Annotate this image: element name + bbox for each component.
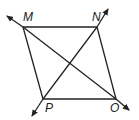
vertex-label-m: M xyxy=(23,10,33,24)
vertex-label-n: N xyxy=(92,10,101,24)
line-mo xyxy=(7,16,23,27)
vertex-label-o: O xyxy=(110,101,119,115)
line-np-ext2 xyxy=(32,99,43,116)
vertex-label-p: P xyxy=(45,101,53,115)
line-np-main xyxy=(43,27,97,99)
side-no xyxy=(97,27,116,99)
side-pm xyxy=(23,27,43,99)
parallelogram-diagram: M N P O xyxy=(0,0,139,120)
